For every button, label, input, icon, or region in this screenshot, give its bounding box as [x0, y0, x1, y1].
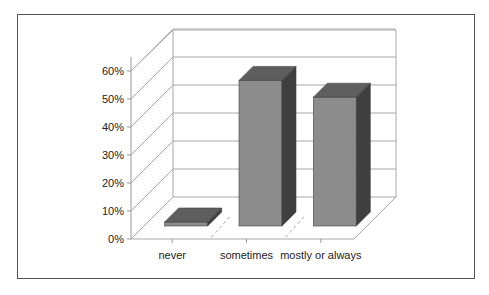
y-tick-label: 10% [102, 205, 124, 217]
bar-never [165, 208, 222, 226]
x-axis-category-labels: neversometimesmostly or always [158, 249, 362, 261]
bar-sometimes [239, 66, 296, 226]
x-category-label: sometimes [220, 249, 274, 261]
x-category-label: mostly or always [280, 249, 362, 261]
y-tick-label: 0% [108, 233, 124, 245]
bar-mostly-or-always [313, 83, 370, 226]
y-tick-label: 60% [102, 65, 124, 77]
y-tick-label: 50% [102, 93, 124, 105]
y-tick-label: 30% [102, 149, 124, 161]
bars [165, 66, 371, 226]
x-category-label: never [158, 249, 186, 261]
y-axis-tick-labels: 0%10%20%30%40%50%60% [102, 65, 124, 245]
y-tick-label: 40% [102, 121, 124, 133]
bar-chart: 0%10%20%30%40%50%60% neversometimesmostl… [0, 0, 489, 295]
y-tick-label: 20% [102, 177, 124, 189]
